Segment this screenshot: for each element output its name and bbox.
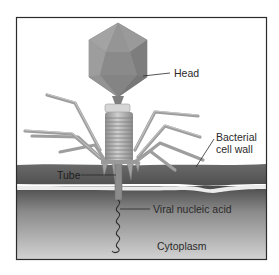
cytoplasm-region (17, 186, 266, 259)
bacterial-cell-wall (17, 164, 266, 186)
tail-tube (115, 160, 122, 200)
baseplate (101, 160, 137, 164)
label-cytoplasm: Cytoplasm (157, 240, 207, 252)
label-cell-wall: cell wall (216, 143, 253, 155)
label-viral-nucleic-acid: Viral nucleic acid (153, 203, 232, 215)
collar (105, 104, 130, 112)
label-head: Head (174, 67, 199, 79)
phage-diagram: Head Bacterial cell wall Tube Viral nucl… (0, 0, 279, 275)
label-bacterial: Bacterial (216, 131, 257, 143)
label-tube: Tube (57, 169, 81, 181)
